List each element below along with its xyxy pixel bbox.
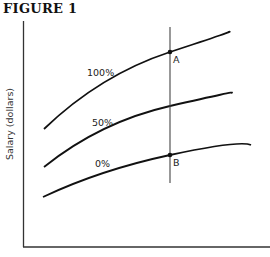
point-b-marker [168,153,173,158]
point-a-marker [168,50,173,55]
point-b-label: B [173,157,180,168]
point-a-label: A [173,54,180,65]
y-axis-label: Salary (dollars) [4,88,15,160]
curve-100-percent [44,32,230,129]
curve-label-50: 50% [92,117,113,128]
salary-diagram: 100% 50% 0% A B Salary (dollars) [0,0,270,257]
curve-0-percent [43,144,251,197]
curve-label-100: 100% [87,67,114,78]
curve-label-0: 0% [95,158,110,169]
